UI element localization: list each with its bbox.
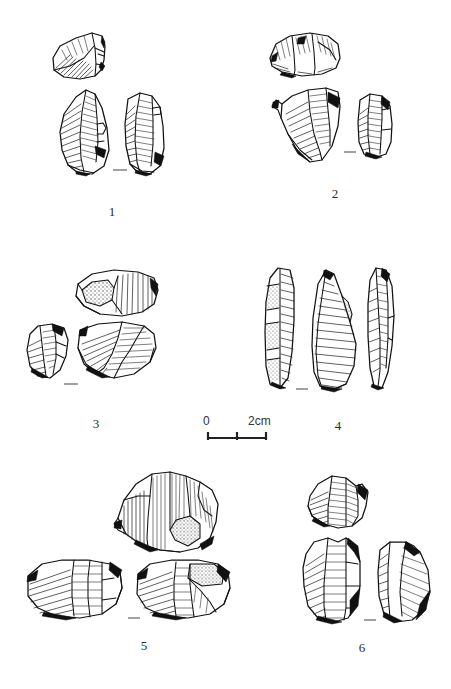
specimen-5-number: 5 — [124, 638, 164, 654]
specimen-5-view-ventral-left-view — [27, 560, 122, 620]
specimen-6-view-dorsal-top-core — [308, 476, 368, 528]
specimen-5-view-lateral-right-view — [137, 560, 230, 620]
specimen-1-view-ventral-left-view — [60, 90, 109, 176]
specimen-1 — [40, 24, 185, 184]
specimen-2-view-lateral-right-view — [358, 94, 392, 159]
specimen-4-view-ventral-centre-blade — [312, 270, 356, 392]
figure-plate: 1 — [0, 0, 451, 689]
specimen-4-view-lateral-right-blade — [368, 268, 394, 390]
specimen-4 — [256, 262, 404, 397]
specimen-1-view-lateral-right-view — [125, 93, 164, 176]
specimen-2-view-ventral-left-view — [272, 88, 340, 162]
scale-max-label: 2cm — [248, 414, 271, 428]
specimen-1-number: 1 — [92, 204, 132, 220]
specimen-6 — [284, 470, 439, 625]
scale-zero-label: 0 — [203, 414, 210, 428]
specimen-4-view-lateral-left-blade — [265, 268, 294, 389]
specimen-5-view-dorsal-top-core — [114, 472, 218, 552]
specimen-1-view-dorsal-top-fragment — [53, 33, 105, 79]
specimen-3-number: 3 — [76, 416, 116, 432]
specimen-6-view-lateral-right-view — [378, 542, 430, 623]
specimen-5 — [14, 466, 234, 626]
scale-bar: 0 2cm — [200, 418, 282, 446]
specimen-2 — [262, 30, 407, 175]
specimen-3-view-ventral-right-view — [78, 322, 156, 378]
specimen-2-view-dorsal-top-fragment — [270, 33, 340, 78]
specimen-3-view-dorsal-top-view — [76, 270, 158, 316]
specimen-3-view-lateral-left-view — [27, 324, 68, 378]
specimen-6-view-ventral-left-view — [303, 538, 360, 624]
specimen-2-number: 2 — [315, 186, 355, 202]
specimen-3 — [22, 266, 172, 391]
specimen-4-number: 4 — [318, 418, 358, 434]
specimen-6-number: 6 — [342, 640, 382, 656]
